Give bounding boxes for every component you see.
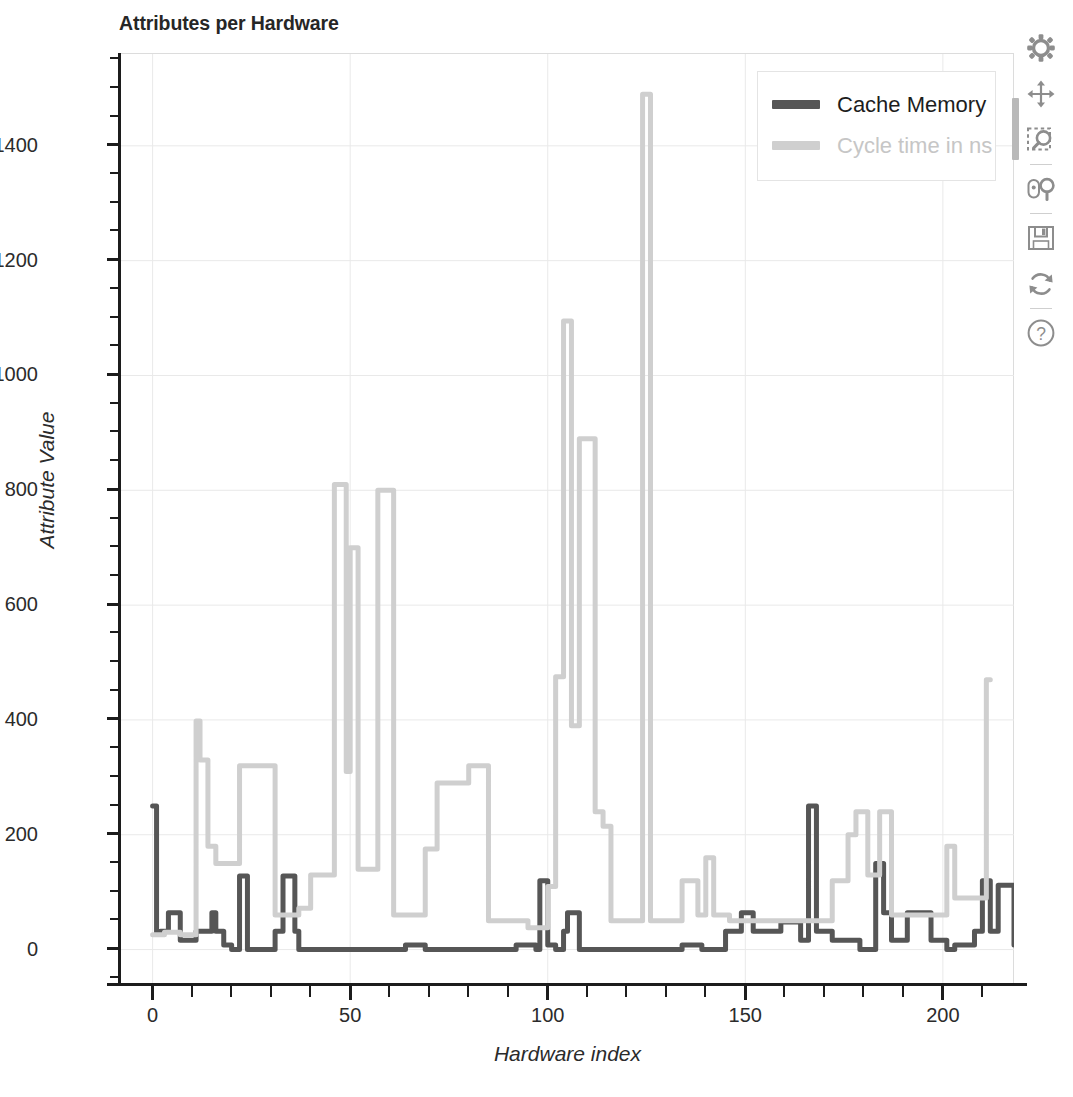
x-tick-major bbox=[151, 986, 154, 1000]
y-tick-minor bbox=[110, 115, 121, 117]
y-tick-minor bbox=[110, 57, 121, 59]
y-tick-minor bbox=[110, 430, 121, 432]
y-tick-minor bbox=[110, 861, 121, 863]
y-tick-major bbox=[107, 832, 121, 835]
x-tick-minor bbox=[388, 986, 390, 997]
page-title: Attributes per Hardware bbox=[119, 12, 339, 35]
legend-swatch-cache-memory bbox=[772, 100, 820, 109]
y-tick-label: 0 bbox=[27, 937, 38, 960]
legend-item[interactable]: Cycle time in ns bbox=[772, 125, 985, 166]
y-tick-minor bbox=[110, 660, 121, 662]
y-tick-major bbox=[107, 717, 121, 720]
toolbar-separator bbox=[1030, 308, 1052, 309]
y-tick-minor bbox=[110, 976, 121, 978]
y-tick-major bbox=[107, 488, 121, 491]
x-tick-label: 0 bbox=[147, 1004, 158, 1027]
x-tick-minor bbox=[704, 986, 706, 997]
x-tick-minor bbox=[191, 986, 193, 997]
y-tick-minor bbox=[110, 574, 121, 576]
x-tick-minor bbox=[586, 986, 588, 997]
reset-icon[interactable] bbox=[1018, 261, 1064, 307]
x-tick-major bbox=[546, 986, 549, 1000]
y-tick-minor bbox=[110, 172, 121, 174]
x-tick-minor bbox=[230, 986, 232, 997]
x-tick-minor bbox=[467, 986, 469, 997]
legend: Cache Memory Cycle time in ns bbox=[757, 71, 996, 181]
x-tick-minor bbox=[625, 986, 627, 997]
x-axis-spine bbox=[107, 983, 1027, 986]
y-tick-minor bbox=[110, 316, 121, 318]
y-tick-label: 600 bbox=[5, 593, 38, 616]
y-tick-minor bbox=[110, 229, 121, 231]
x-tick-label: 100 bbox=[531, 1004, 564, 1027]
y-tick-minor bbox=[110, 459, 121, 461]
toolbar-separator bbox=[1030, 164, 1052, 165]
y-tick-minor bbox=[110, 775, 121, 777]
y-tick-minor bbox=[110, 545, 121, 547]
y-tick-minor bbox=[110, 287, 121, 289]
x-tick-minor bbox=[862, 986, 864, 997]
svg-text:?: ? bbox=[1036, 324, 1046, 344]
x-tick-minor bbox=[783, 986, 785, 997]
x-tick-major bbox=[744, 986, 747, 1000]
x-tick-minor bbox=[665, 986, 667, 997]
x-tick-minor bbox=[981, 986, 983, 997]
legend-label-cycle-time: Cycle time in ns bbox=[837, 133, 992, 159]
legend-label-cache-memory: Cache Memory bbox=[837, 92, 986, 118]
y-tick-minor bbox=[110, 918, 121, 920]
y-tick-major bbox=[107, 603, 121, 606]
y-tick-major bbox=[107, 258, 121, 261]
zoom-to-rectangle-icon[interactable] bbox=[1018, 117, 1064, 163]
y-tick-label: 400 bbox=[5, 707, 38, 730]
y-tick-minor bbox=[110, 517, 121, 519]
y-tick-minor bbox=[110, 746, 121, 748]
x-tick-label: 200 bbox=[926, 1004, 959, 1027]
y-tick-minor bbox=[110, 890, 121, 892]
y-tick-minor bbox=[110, 804, 121, 806]
y-tick-minor bbox=[110, 689, 121, 691]
y-tick-label: 800 bbox=[5, 478, 38, 501]
x-tick-major bbox=[941, 986, 944, 1000]
y-tick-label: 200 bbox=[5, 822, 38, 845]
legend-item[interactable]: Cache Memory bbox=[772, 84, 985, 125]
x-axis-label: Hardware index bbox=[121, 1042, 1014, 1066]
y-tick-major bbox=[107, 143, 121, 146]
y-tick-minor bbox=[110, 402, 121, 404]
x-tick-label: 50 bbox=[339, 1004, 361, 1027]
x-tick-minor bbox=[428, 986, 430, 997]
y-tick-minor bbox=[110, 631, 121, 633]
legend-swatch-cycle-time bbox=[772, 141, 820, 150]
y-tick-label: 1400 bbox=[0, 133, 38, 156]
chart-page: Attributes per Hardware 0200400600800100… bbox=[0, 0, 1073, 1097]
x-tick-minor bbox=[309, 986, 311, 997]
pan-icon[interactable] bbox=[1018, 71, 1064, 117]
toolbar-separator bbox=[1030, 213, 1052, 214]
configure-subplots-icon[interactable] bbox=[1018, 25, 1064, 71]
x-tick-major bbox=[349, 986, 352, 1000]
series-paths bbox=[153, 94, 1014, 949]
zoom-mouse-icon[interactable] bbox=[1018, 166, 1064, 212]
chart-toolbar: ? bbox=[1013, 25, 1069, 356]
y-tick-minor bbox=[110, 86, 121, 88]
y-tick-label: 1200 bbox=[0, 248, 38, 271]
x-tick-minor bbox=[902, 986, 904, 997]
plot-svg bbox=[121, 54, 1014, 984]
x-tick-label: 150 bbox=[729, 1004, 762, 1027]
x-tick-minor bbox=[823, 986, 825, 997]
y-tick-major bbox=[107, 947, 121, 950]
y-axis-label: Attribute Value bbox=[35, 270, 59, 690]
y-tick-minor bbox=[110, 344, 121, 346]
help-icon[interactable]: ? bbox=[1018, 310, 1064, 356]
plot-area[interactable] bbox=[121, 53, 1014, 983]
save-icon[interactable] bbox=[1018, 215, 1064, 261]
y-tick-minor bbox=[110, 201, 121, 203]
y-tick-label: 1000 bbox=[0, 363, 38, 386]
x-tick-minor bbox=[270, 986, 272, 997]
x-tick-minor bbox=[507, 986, 509, 997]
y-tick-major bbox=[107, 373, 121, 376]
